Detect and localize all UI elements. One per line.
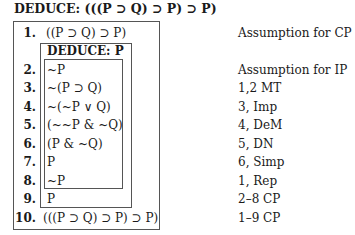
line-formula: P (47, 192, 55, 206)
line-justification: 3, Imp (238, 100, 277, 114)
line-justification: 2–8 CP (238, 192, 280, 206)
line-number: 3. (12, 81, 36, 95)
line-formula: ~P (47, 174, 65, 188)
line-number: 8. (12, 174, 36, 188)
line-number: 9. (12, 192, 36, 206)
line-formula: (P & ~Q) (47, 137, 103, 151)
line-formula: (((P ⊃ Q) ⊃ P) ⊃ P) (43, 211, 158, 225)
line-formula: ~P (47, 63, 65, 77)
line-number: 1. (12, 26, 36, 40)
line-formula: ((P ⊃ Q) ⊃ P) (46, 26, 126, 40)
line-justification: 6, Simp (238, 155, 284, 169)
line-number: 10. (12, 211, 36, 225)
line-formula: (~~P & ~Q) (47, 118, 123, 132)
line-justification: 1–9 CP (238, 211, 280, 225)
line-justification: 1, Rep (238, 174, 277, 188)
line-formula: ~(~P ∨ Q) (47, 100, 111, 114)
line-justification: 5, DN (238, 137, 273, 151)
line-number: 4. (12, 100, 36, 114)
proof-title: DEDUCE: (((P ⊃ Q) ⊃ P) ⊃ P) (14, 2, 217, 16)
line-number: 5. (12, 118, 36, 132)
line-justification: Assumption for IP (238, 63, 347, 77)
line-justification: Assumption for CP (238, 26, 352, 40)
line-formula: ~(P ⊃ Q) (47, 81, 102, 95)
line-number: 6. (12, 137, 36, 151)
line-justification: 4, DeM (238, 118, 282, 132)
line-number: 2. (12, 63, 36, 77)
line-justification: 1,2 MT (238, 81, 281, 95)
line-formula: P (47, 155, 55, 169)
line-number: 7. (12, 155, 36, 169)
subproof-header: DEDUCE: P (47, 44, 124, 58)
